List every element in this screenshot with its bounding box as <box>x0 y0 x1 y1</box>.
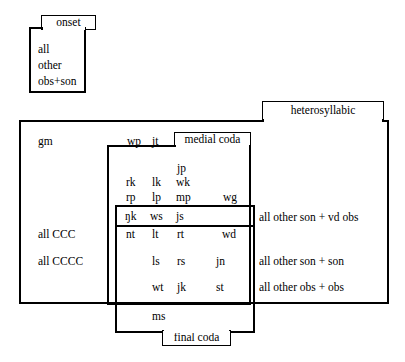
cluster-rk: rk <box>126 177 136 189</box>
cluster-lk: lk <box>152 177 161 189</box>
hetero-right-label-obs-obs: all other obs + obs <box>259 282 344 294</box>
hetero-left-label-all-cccc: all CCCC <box>38 256 83 268</box>
cluster-wt: wt <box>152 282 164 294</box>
cluster-jk: jk <box>177 282 186 294</box>
cluster-jp: jp <box>177 163 186 175</box>
cluster-rp: rp <box>126 192 136 204</box>
cluster-st: st <box>216 282 241 294</box>
heterosyllabic-tab-seam <box>264 119 382 123</box>
cluster-ls: ls <box>152 256 160 268</box>
heterosyllabic-group-tab-label: heterosyllabic <box>291 105 356 117</box>
cluster-js: js <box>176 211 184 223</box>
onset-item-obs-son: obs+son <box>38 76 76 88</box>
cluster-jt: jt <box>152 136 158 148</box>
onset-item-other: other <box>38 60 62 72</box>
cluster-lt: lt <box>152 229 158 241</box>
cluster-ws: ws <box>150 211 163 223</box>
diagram-canvas: onset all other obs+son heterosyllabic m… <box>0 0 405 362</box>
cluster-lp: lp <box>152 192 161 204</box>
medial-coda-tab-seam <box>176 144 249 147</box>
cluster-rt: rt <box>177 229 184 241</box>
hetero-right-label-son-vd-obs: all other son + vd obs <box>259 212 358 224</box>
cluster-wk: wk <box>176 177 190 189</box>
cluster-wg: wg <box>223 192 237 204</box>
final-coda-tab-seam <box>164 330 229 333</box>
onset-tab-seam <box>43 27 85 30</box>
cluster-nt: nt <box>126 229 135 241</box>
cluster-ms: ms <box>152 311 165 323</box>
onset-item-all: all <box>38 44 50 56</box>
hetero-left-label-gm: gm <box>38 136 53 148</box>
final-coda-group-tab-label: final coda <box>174 332 220 344</box>
cluster-wp: wp <box>127 136 141 148</box>
hetero-left-label-all-ccc: all CCC <box>38 229 75 241</box>
cluster-mp: mp <box>176 192 191 204</box>
heterosyllabic-group-tab: heterosyllabic <box>262 101 384 120</box>
cluster-rs: rs <box>177 256 185 268</box>
cluster-ngk: ŋk <box>125 211 136 223</box>
cluster-jn: jn <box>216 256 241 268</box>
hetero-right-label-son-son: all other son + son <box>259 256 344 268</box>
cluster-wd: wd <box>222 229 236 241</box>
